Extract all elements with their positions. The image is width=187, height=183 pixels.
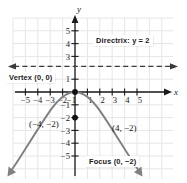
- focus-point: [72, 115, 78, 121]
- directrix-line: [8, 63, 178, 69]
- parabola-figure: −5 −4 −3 −2 −1 1 2 3 4 5 5 4 3 1 −1 −2 −…: [0, 0, 187, 183]
- x-axis-label: x: [173, 87, 178, 97]
- svg-text:3: 3: [113, 95, 117, 105]
- point-label-left: (−4, −2): [29, 120, 59, 129]
- directrix-callout: Directrix: y = 2: [93, 35, 153, 46]
- svg-text:−1: −1: [61, 100, 70, 110]
- svg-text:−4: −4: [33, 95, 43, 105]
- svg-text:−5: −5: [61, 151, 70, 161]
- svg-text:5: 5: [66, 26, 70, 36]
- x-tick-labels: −5 −4 −3 −2 −1 1 2 3 4 5: [21, 95, 142, 105]
- svg-text:−5: −5: [21, 95, 30, 105]
- svg-text:−3: −3: [61, 126, 70, 136]
- svg-text:−3: −3: [46, 95, 55, 105]
- focus-callout: Focus (0, −2): [86, 156, 139, 167]
- svg-text:−2: −2: [61, 113, 70, 123]
- svg-text:4: 4: [125, 95, 130, 105]
- svg-text:3: 3: [66, 52, 70, 62]
- svg-text:5: 5: [138, 95, 142, 105]
- point-label-right: (4, −2): [112, 124, 137, 133]
- svg-text:2: 2: [100, 95, 104, 105]
- vertex-point: [72, 89, 78, 95]
- y-axis-label: y: [76, 4, 81, 14]
- svg-text:−4: −4: [61, 138, 71, 148]
- svg-text:1: 1: [66, 74, 70, 84]
- svg-text:4: 4: [66, 39, 71, 49]
- vertex-callout: Vertex (0, 0): [6, 72, 55, 83]
